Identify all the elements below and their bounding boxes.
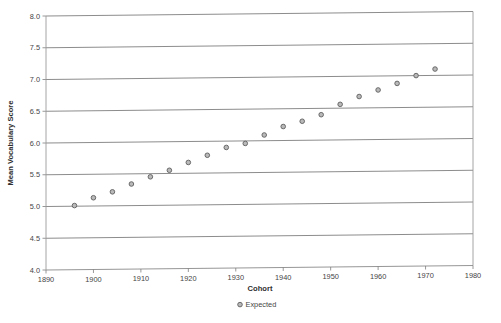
x-tick-label: 1900 [85,275,101,284]
legend-label: Expected [246,300,277,309]
data-point [433,67,438,72]
y-tick-label: 4.0 [30,266,40,275]
data-point [300,119,305,124]
data-point [376,88,381,93]
data-point [167,168,172,173]
y-tick-label: 5.5 [30,170,40,179]
data-point [395,81,400,86]
x-tick-label: 1940 [275,273,291,282]
legend-marker-icon [238,302,243,307]
chart-container: 4.04.55.05.56.06.57.07.58.0 189019001910… [0,0,501,323]
data-point [224,145,229,150]
data-point [186,160,191,165]
y-tick-label: 5.0 [30,202,40,211]
y-axis-title: Mean Vocabulary Score [6,100,15,185]
x-tick-label: 1950 [322,272,338,281]
y-tick-label: 7.5 [30,43,40,52]
data-point [262,133,267,138]
y-tick-label: 6.5 [30,107,40,116]
x-tick-label: 1910 [133,274,149,283]
data-point [243,141,248,146]
y-tick-label: 4.5 [30,234,40,243]
data-point [414,73,419,78]
x-tick-label: 1890 [38,275,54,284]
x-axis-title: Cohort [248,284,273,293]
data-point [205,153,210,158]
data-point [148,175,153,180]
x-tick-label: 1970 [417,271,433,280]
data-point [110,190,115,195]
y-tick-label: 8.0 [30,12,40,21]
data-point [129,182,134,187]
data-point [338,102,343,107]
data-point [72,203,77,208]
data-point [357,94,362,99]
data-point [319,112,324,117]
y-tick-label: 7.0 [30,75,40,84]
scatter-chart: 4.04.55.05.56.06.57.07.58.0 189019001910… [0,0,501,323]
x-tick-label: 1930 [228,273,244,282]
x-tick-label: 1980 [465,271,481,280]
x-tick-label: 1920 [180,274,196,283]
data-point [281,124,286,129]
y-tick-label: 6.0 [30,139,40,148]
data-point [91,195,96,200]
x-tick-label: 1960 [370,272,386,281]
